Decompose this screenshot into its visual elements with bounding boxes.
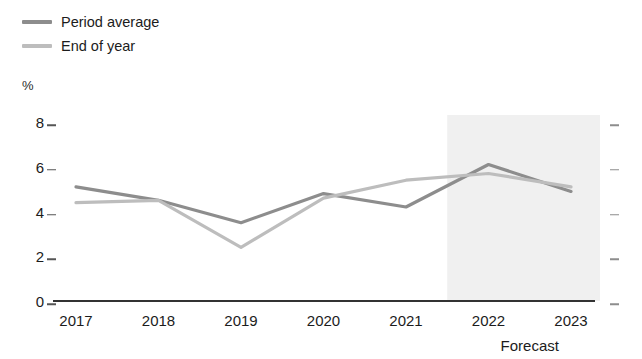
x-axis-tick-label: 2020 xyxy=(307,312,340,329)
x-axis-tick-label: 2018 xyxy=(142,312,175,329)
y-axis-tick-mark-left xyxy=(47,124,56,126)
chart-container: Period average End of year % 02468201720… xyxy=(0,0,642,359)
y-axis-tick-mark-left xyxy=(47,169,56,171)
y-axis-tick-label: 0 xyxy=(18,293,44,310)
x-axis-tick-label: 2019 xyxy=(224,312,257,329)
x-axis-tick-label: 2023 xyxy=(554,312,587,329)
y-axis-tick-label: 4 xyxy=(18,203,44,220)
y-axis-tick-mark-right xyxy=(610,303,619,305)
forecast-shaded-band xyxy=(447,115,600,301)
forecast-caption: Forecast xyxy=(501,337,559,354)
y-axis-tick-mark-right xyxy=(610,214,619,216)
y-axis-tick-mark-left xyxy=(47,259,56,261)
chart-svg xyxy=(0,0,642,359)
y-axis-tick-mark-left xyxy=(47,214,56,216)
x-axis-tick-label: 2021 xyxy=(389,312,422,329)
y-axis-tick-mark-right xyxy=(610,259,619,261)
x-axis-tick-label: 2022 xyxy=(472,312,505,329)
y-axis-tick-mark-right xyxy=(610,169,619,171)
x-axis-tick-label: 2017 xyxy=(59,312,92,329)
y-axis-tick-label: 8 xyxy=(18,114,44,131)
y-axis-tick-mark-left xyxy=(47,303,56,305)
plot-area: 024682017201820192020202120222023Forecas… xyxy=(0,0,642,359)
y-axis-tick-mark-right xyxy=(610,124,619,126)
y-axis-tick-label: 2 xyxy=(18,248,44,265)
y-axis-tick-label: 6 xyxy=(18,158,44,175)
